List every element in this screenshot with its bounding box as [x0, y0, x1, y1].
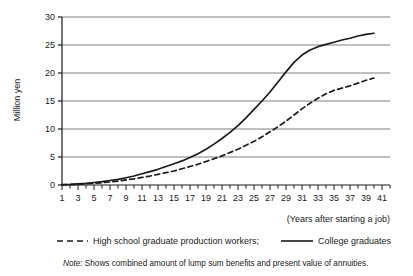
series-line-high-school-graduates — [62, 78, 374, 185]
y-tick-label: 10 — [45, 124, 55, 134]
y-axis-title: Million yen — [12, 79, 22, 122]
note-line: Note: Shows combined amount of lump sum … — [63, 259, 368, 268]
data-series — [62, 33, 374, 185]
grid-lines — [62, 17, 390, 185]
x-tick-label: 23 — [233, 193, 243, 203]
y-tick-label: 0 — [50, 180, 55, 190]
x-tick-label: 29 — [281, 193, 291, 203]
x-axis-caption: (Years after starting a job) — [287, 214, 390, 224]
y-tick-label: 25 — [45, 40, 55, 50]
x-tick-label: 1 — [59, 193, 64, 203]
legend-label-college: College graduates — [318, 236, 392, 246]
x-tick-label: 35 — [329, 193, 339, 203]
y-tick-label: 20 — [45, 68, 55, 78]
x-tick-label: 21 — [217, 193, 227, 203]
y-tick-label: 15 — [45, 96, 55, 106]
x-tick-label: 9 — [123, 193, 128, 203]
y-tick-label: 30 — [45, 12, 55, 22]
x-tick-marks — [62, 185, 390, 190]
line-chart: 051015202530 135791113151719212325272931… — [0, 0, 413, 276]
x-tick-label: 31 — [297, 193, 307, 203]
x-tick-label: 19 — [201, 193, 211, 203]
x-tick-label: 39 — [361, 193, 371, 203]
x-tick-label: 37 — [345, 193, 355, 203]
x-tick-label: 5 — [91, 193, 96, 203]
x-tick-label: 33 — [313, 193, 323, 203]
chart-figure: 051015202530 135791113151719212325272931… — [0, 0, 413, 276]
legend: High school graduate production workers;… — [57, 236, 392, 246]
note-prefix: Note — [63, 259, 81, 268]
x-tick-label: 27 — [265, 193, 275, 203]
x-tick-label: 13 — [153, 193, 163, 203]
x-tick-label: 17 — [185, 193, 195, 203]
legend-label-high-school: High school graduate production workers; — [93, 236, 259, 246]
x-tick-label: 7 — [107, 193, 112, 203]
y-tick-label: 5 — [50, 152, 55, 162]
x-tick-label: 15 — [169, 193, 179, 203]
x-tick-labels: 1357911131517192123252729313335373941 — [59, 193, 387, 203]
y-tick-labels: 051015202530 — [45, 12, 55, 190]
axes — [58, 17, 62, 185]
x-tick-label: 11 — [137, 193, 146, 203]
x-tick-label: 41 — [377, 193, 387, 203]
series-line-college-graduates — [62, 33, 374, 184]
x-tick-label: 25 — [249, 193, 259, 203]
note-block: Note: Shows combined amount of lump sum … — [63, 259, 368, 268]
x-tick-label: 3 — [75, 193, 80, 203]
